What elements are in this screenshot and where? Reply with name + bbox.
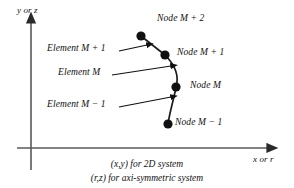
element-label-m: Element M <box>58 68 100 78</box>
node-label-m-plus-1: Node M + 1 <box>177 48 224 58</box>
node-marker-m <box>171 82 180 91</box>
element-label-m-minus-1: Element M − 1 <box>47 100 106 110</box>
finite-element-node-diagram: y or z x or r Node M + 2 Node M + 1 Node… <box>0 0 294 188</box>
y-axis-label: y or z <box>17 6 38 15</box>
node-label-m-plus-2: Node M + 2 <box>157 14 204 24</box>
node-label-m-minus-1: Node M − 1 <box>175 118 222 128</box>
caption-line-axisymmetric: (r,z) for axi-symmetric system <box>0 174 294 184</box>
caption-line-2d: (x,y) for 2D system <box>0 160 294 170</box>
node-marker-m-minus-1 <box>163 119 172 128</box>
element-m-minus-1-pointer <box>119 97 171 107</box>
element-label-m-plus-1: Element M + 1 <box>47 44 106 54</box>
element-m-plus-1-pointer <box>119 45 147 51</box>
node-marker-m-plus-2 <box>136 31 145 40</box>
node-marker-m-plus-1 <box>160 50 169 59</box>
node-label-m: Node M <box>190 81 221 91</box>
element-curve-middle <box>165 55 177 87</box>
element-m-pointer <box>112 66 171 75</box>
